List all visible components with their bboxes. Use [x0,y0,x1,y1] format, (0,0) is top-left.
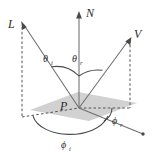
diagram-canvas: L N V P θ i θ r ϕ i ϕ r [0,0,153,152]
svg-text:i: i [69,145,71,152]
phi-i-label: ϕ i [61,139,71,152]
brdf-geometry-figure: L N V P θ i θ r ϕ i ϕ r [0,0,153,152]
theta-r-label: θ r [72,53,83,66]
light-vector-label: L [7,17,15,31]
svg-text:i: i [51,59,53,66]
surface-plane [30,92,137,121]
outgoing-ray-endpoint-dot [141,132,144,135]
theta-r-arc [79,70,103,76]
svg-text:ϕ: ϕ [112,115,117,126]
svg-text:r: r [120,121,123,128]
phi-i-arc [33,116,108,134]
theta-i-arc [51,66,79,76]
view-vector-label: V [134,27,143,41]
phi-r-label: ϕ r [112,115,123,128]
svg-text:θ: θ [43,53,48,64]
svg-text:θ: θ [72,53,77,64]
svg-text:r: r [80,59,83,66]
svg-text:ϕ: ϕ [61,139,66,150]
normal-vector-label: N [85,6,95,20]
normal-arrowhead-icon [76,11,82,18]
surface-point-label: P [59,99,68,113]
theta-i-label: θ i [43,53,53,66]
